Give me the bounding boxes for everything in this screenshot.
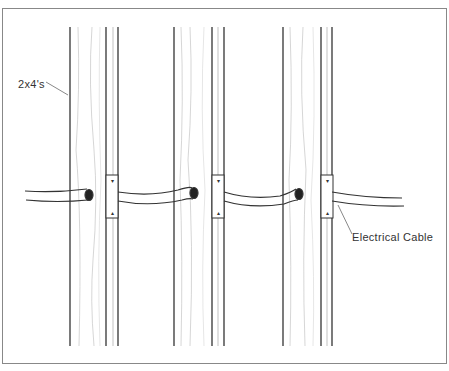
svg-text:▾: ▾	[326, 178, 329, 184]
svg-text:▴: ▴	[217, 210, 220, 216]
svg-text:▴: ▴	[326, 210, 329, 216]
svg-text:▾: ▾	[217, 178, 220, 184]
svg-text:▾: ▾	[111, 178, 114, 184]
studs-label: 2x4's	[18, 78, 45, 90]
diagram-canvas: ▾ ▴ ▾ ▴ ▾ ▴	[0, 0, 449, 371]
studs-leader-line	[46, 82, 68, 95]
svg-text:▴: ▴	[111, 210, 114, 216]
cable-label: Electrical Cable	[352, 231, 433, 243]
cable-leader-line	[338, 205, 352, 234]
